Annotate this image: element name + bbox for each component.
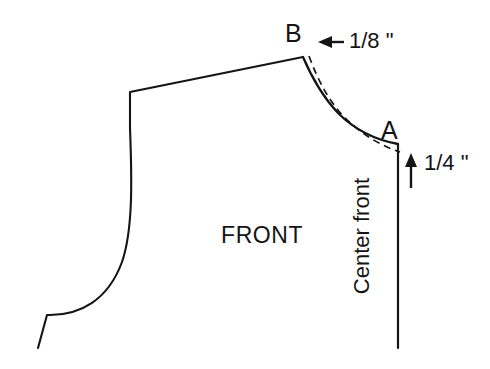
- dimension-label-eighth-inch: 1/8 ": [349, 30, 394, 52]
- arrow-left-head-icon: [318, 36, 332, 48]
- arrow-up-head-icon: [405, 153, 417, 167]
- dimension-arrow-eighth: [318, 36, 344, 48]
- pattern-drawing-canvas: [0, 0, 490, 369]
- label-center-front: Center front: [351, 178, 373, 294]
- pattern-diagram: B A FRONT Center front 1/8 " 1/4 ": [0, 0, 490, 369]
- label-piece-front: FRONT: [221, 224, 303, 247]
- dimension-label-quarter-inch: 1/4 ": [424, 152, 469, 174]
- label-point-b: B: [285, 21, 302, 46]
- label-point-a: A: [381, 118, 398, 143]
- pattern-outline-path: [38, 57, 303, 348]
- dimension-arrow-quarter: [405, 153, 417, 188]
